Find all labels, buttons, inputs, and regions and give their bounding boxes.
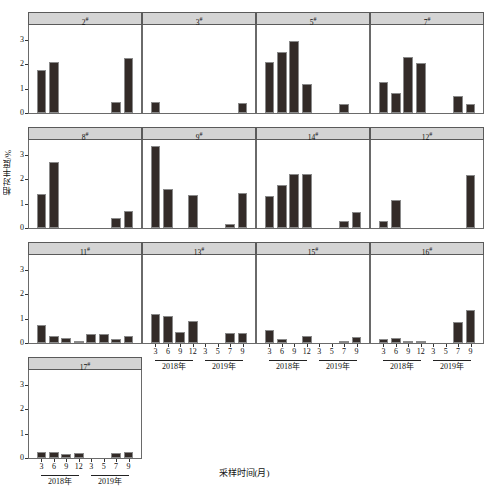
bar-series [257, 140, 369, 228]
panel-title-16: 16# [370, 242, 484, 255]
bar-series [371, 140, 483, 228]
bar [352, 212, 362, 228]
bar [379, 82, 389, 113]
bar [289, 174, 299, 228]
bar [151, 102, 161, 113]
x-axis-col-3: 3691235792018年2019年 [370, 344, 484, 374]
y-tick-label: 2 [6, 60, 24, 68]
panel-14: 14# [256, 127, 370, 229]
bar [339, 341, 349, 343]
y-tick-mark [25, 155, 28, 156]
y-tick-mark [25, 409, 28, 410]
x-tick-label: 9 [464, 347, 478, 357]
panel-title-2: 2# [28, 12, 142, 25]
bar [302, 84, 312, 113]
y-tick-label: 2 [6, 290, 24, 298]
y-tick-mark [25, 113, 28, 114]
bar [99, 334, 109, 343]
bar [49, 336, 59, 343]
y-tick-label: 0 [6, 454, 24, 462]
y-tick-mark [25, 434, 28, 435]
bar [277, 339, 287, 343]
bar [49, 162, 59, 228]
bar [86, 334, 96, 343]
panel-11: 11# [28, 242, 142, 344]
panel-title-13: 13# [142, 242, 256, 255]
bar [124, 211, 134, 228]
y-tick-label: 1 [6, 430, 24, 438]
bar [37, 452, 47, 458]
bar [74, 341, 84, 343]
bar [466, 175, 476, 228]
bar [302, 336, 312, 343]
year-group-label: 2018年 [375, 361, 428, 372]
bar [225, 224, 235, 228]
year-group-label: 2019年 [83, 476, 136, 487]
panel-title-15: 15# [256, 242, 370, 255]
bar [151, 146, 161, 228]
bar [265, 330, 275, 343]
bar [124, 336, 134, 343]
bar [277, 185, 287, 228]
bar-series [29, 370, 141, 458]
panel-8: 8# [28, 127, 142, 229]
bar [111, 218, 121, 228]
bar [339, 221, 349, 228]
y-tick-label: 0 [6, 224, 24, 232]
panel-title-12: 12# [370, 127, 484, 140]
plot-area-16 [370, 255, 484, 344]
y-tick-mark [25, 385, 28, 386]
bar [277, 52, 287, 113]
plot-area-17 [28, 370, 142, 459]
year-group-label: 2018年 [33, 476, 86, 487]
x-axis-col-2: 3691235792018年2019年 [256, 344, 370, 374]
bar [111, 339, 121, 343]
y-tick-mark [25, 40, 28, 41]
panel-15: 15# [256, 242, 370, 344]
bar [391, 338, 401, 343]
y-tick-label: 3 [6, 36, 24, 44]
panel-7: 7# [370, 12, 484, 114]
bar [163, 189, 173, 228]
panel-13: 13# [142, 242, 256, 344]
year-group-label: 2018年 [261, 361, 314, 372]
panel-2: 2# [28, 12, 142, 114]
bar [111, 453, 121, 458]
bar [225, 333, 235, 343]
panel-12: 12# [370, 127, 484, 229]
bar [61, 454, 71, 458]
bar [151, 314, 161, 343]
y-tick-mark [25, 319, 28, 320]
panel-5: 5# [256, 12, 370, 114]
plot-area-8 [28, 140, 142, 229]
plot-area-14 [256, 140, 370, 229]
y-tick-mark [25, 228, 28, 229]
y-tick-label: 2 [6, 175, 24, 183]
panel-title-17: 17# [28, 357, 142, 370]
plot-area-5 [256, 25, 370, 114]
bar [238, 193, 248, 228]
bar [302, 174, 312, 228]
bar [466, 310, 476, 343]
bar [416, 341, 426, 343]
bar [49, 62, 59, 113]
figure-root: 相对丰度/% 采样时间(月) 2#3#5#7#8#9#14#12#11#13#1… [0, 0, 488, 491]
x-axis-col-1: 3691235792018年2019年 [142, 344, 256, 374]
y-tick-label: 0 [6, 109, 24, 117]
plot-area-15 [256, 255, 370, 344]
x-tick-label: 9 [350, 347, 364, 357]
panel-title-9: 9# [142, 127, 256, 140]
panel-title-14: 14# [256, 127, 370, 140]
bar-series [143, 255, 255, 343]
y-tick-label: 1 [6, 85, 24, 93]
plot-area-2 [28, 25, 142, 114]
plot-area-7 [370, 25, 484, 114]
panel-3: 3# [142, 12, 256, 114]
y-tick-mark [25, 179, 28, 180]
y-axis-row-2: 0123 [6, 255, 28, 344]
bar-series [257, 255, 369, 343]
bar-series [29, 255, 141, 343]
y-tick-label: 3 [6, 266, 24, 274]
plot-area-12 [370, 140, 484, 229]
panel-title-7: 7# [370, 12, 484, 25]
